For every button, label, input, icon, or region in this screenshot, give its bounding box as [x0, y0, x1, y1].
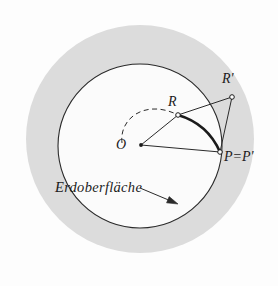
point-marker-O: [139, 143, 143, 147]
geometry-diagram-svg: [0, 0, 278, 286]
point-marker-R: [176, 113, 181, 118]
point-label-R-prime: R': [222, 72, 234, 86]
point-label-R: R: [168, 95, 177, 109]
point-marker-P: [218, 150, 223, 155]
point-label-P-equals-P-prime: P=P': [224, 150, 254, 164]
surface-annotation-label: Erdoberfläche: [55, 180, 142, 195]
point-label-O: O: [116, 138, 126, 152]
point-marker-R-prime: [230, 95, 235, 100]
figure-root: O R R' P=P' Erdoberfläche: [0, 0, 278, 286]
